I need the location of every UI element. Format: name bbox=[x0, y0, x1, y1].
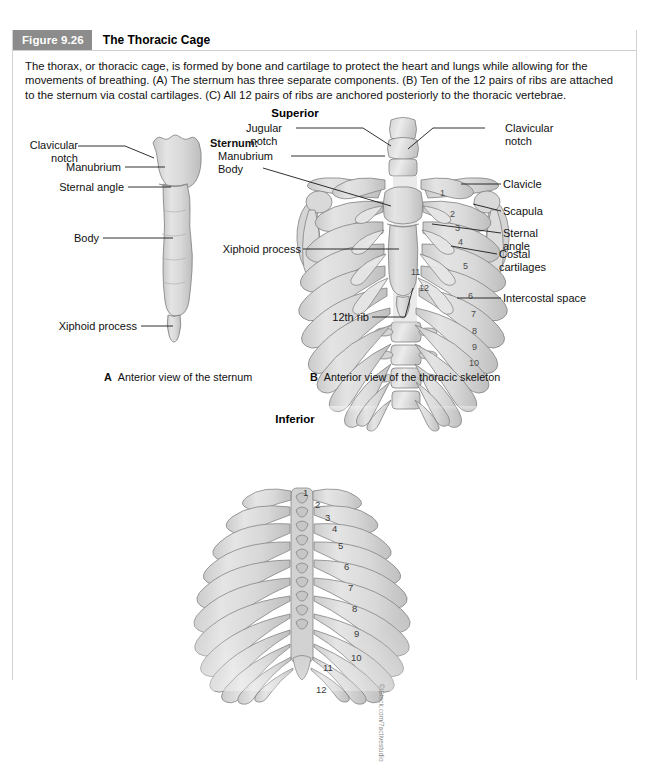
rib-number-b-10: 10 bbox=[469, 358, 479, 368]
posterior-ribcage-illustration bbox=[163, 476, 453, 704]
label-sternum-body-b: Body bbox=[218, 163, 243, 176]
rib-number-c-4: 4 bbox=[332, 523, 337, 534]
rib-number-c-8: 8 bbox=[352, 603, 357, 614]
figure-title: The Thoracic Cage bbox=[92, 30, 210, 50]
rib-number-c-5: 5 bbox=[338, 540, 343, 551]
rib-number-b-2: 2 bbox=[450, 209, 455, 219]
label-sternum-manubrium-b: Manubrium bbox=[218, 150, 273, 163]
figure-caption: The thorax, or thoracic cage, is formed … bbox=[13, 52, 636, 110]
label-body-a: Body bbox=[48, 232, 99, 245]
image-credit: ©iStock.com/7activestudio bbox=[378, 684, 385, 762]
rib-number-c-12: 12 bbox=[316, 684, 327, 695]
rib-number-b-8: 8 bbox=[472, 326, 477, 336]
rib-number-b-3: 3 bbox=[455, 223, 460, 233]
rib-number-b-4: 4 bbox=[458, 237, 463, 247]
label-clavicular-notch-b: Clavicular notch bbox=[505, 122, 553, 147]
figure-plate: Superior Inferior bbox=[13, 106, 638, 680]
sternum-illustration bbox=[153, 135, 201, 342]
rib-number-c-2: 2 bbox=[315, 499, 320, 510]
label-costal-cartilages-b: Costal cartilages bbox=[499, 248, 546, 273]
rib-number-c-6: 6 bbox=[344, 561, 349, 572]
rib-number-c-9: 9 bbox=[354, 628, 359, 639]
panel-a-caption: AAnterior view of the sternum bbox=[104, 371, 252, 383]
label-12th-rib-b: 12th rib bbox=[313, 311, 369, 324]
rib-number-c-10: 10 bbox=[351, 652, 362, 663]
figure-container: Figure 9.26 The Thoracic Cage The thorax… bbox=[12, 30, 637, 680]
figure-header: Figure 9.26 The Thoracic Cage bbox=[13, 30, 636, 51]
rib-number-b-5: 5 bbox=[463, 261, 468, 271]
rib-number-c-11: 11 bbox=[323, 662, 333, 673]
label-scapula-b: Scapula bbox=[503, 205, 543, 218]
rib-number-c-1: 1 bbox=[303, 487, 308, 498]
thoracic-skeleton-illustration bbox=[297, 118, 509, 437]
rib-number-b-11: 11 bbox=[411, 267, 420, 277]
label-sternal-angle-a: Sternal angle bbox=[23, 181, 124, 194]
label-sternum-heading-b: Sternum: bbox=[210, 137, 258, 150]
label-xiphoid-process-b: Xiphoid process bbox=[199, 243, 301, 256]
label-clavicle-b: Clavicle bbox=[503, 178, 542, 191]
rib-number-b-6: 6 bbox=[468, 291, 473, 301]
rib-number-c-7: 7 bbox=[348, 582, 353, 593]
label-intercostal-space-b: Intercostal space bbox=[503, 292, 586, 305]
rib-number-c-3: 3 bbox=[325, 512, 330, 523]
rib-number-b-9: 9 bbox=[472, 342, 477, 352]
figure-number-badge: Figure 9.26 bbox=[13, 30, 92, 50]
panel-b-caption-text: Anterior view of the thoracic skeleton bbox=[324, 371, 500, 383]
label-manubrium-a: Manubrium bbox=[33, 161, 121, 174]
panel-b-caption: BAnterior view of the thoracic skeleton bbox=[310, 371, 500, 383]
rib-number-b-7: 7 bbox=[471, 309, 476, 319]
rib-number-b-1: 1 bbox=[440, 188, 445, 198]
panel-a-letter: A bbox=[104, 371, 112, 383]
panel-a-caption-text: Anterior view of the sternum bbox=[118, 371, 252, 383]
label-xiphoid-process-a: Xiphoid process bbox=[33, 320, 137, 333]
rib-number-b-12: 12 bbox=[419, 283, 429, 293]
panel-b-letter: B bbox=[310, 371, 318, 383]
